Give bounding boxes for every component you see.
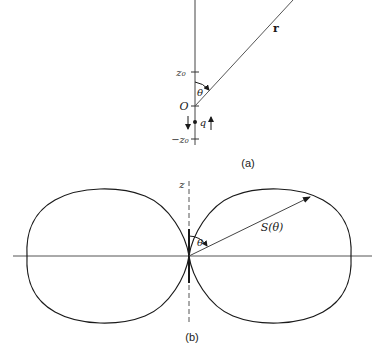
label-theta-b: θ — [197, 237, 203, 248]
charge-dot — [193, 120, 197, 124]
label-r: r — [273, 22, 279, 35]
figure-canvas: z₀ θ O q −z₀ r (a) z θ — [0, 0, 383, 353]
figure-b: z θ S(θ) (b) — [13, 179, 372, 343]
label-origin: O — [179, 100, 188, 113]
figure-a: z₀ θ O q −z₀ r (a) — [171, 0, 293, 169]
label-theta-a: θ — [197, 87, 203, 98]
caption-a: (a) — [241, 157, 254, 169]
label-z-b: z — [178, 179, 185, 190]
s-theta-arrow — [189, 197, 310, 256]
label-minus-z0: −z₀ — [171, 134, 189, 145]
label-q: q — [200, 117, 206, 128]
label-z0: z₀ — [175, 67, 185, 78]
label-s-theta: S(θ) — [261, 221, 284, 234]
caption-b: (b) — [185, 331, 198, 343]
r-vector-line — [195, 0, 293, 106]
